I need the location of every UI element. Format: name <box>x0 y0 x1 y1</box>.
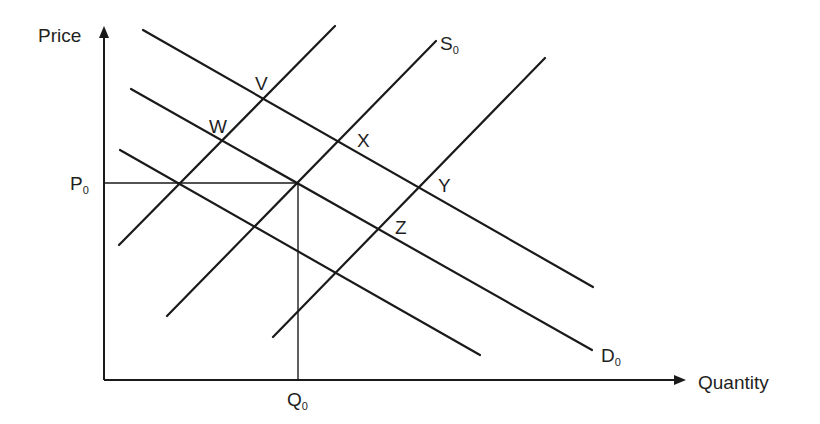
point-z-label: Z <box>395 217 407 238</box>
x-axis-label: Quantity <box>698 372 769 393</box>
point-y-label: Y <box>438 175 451 196</box>
point-x-label: X <box>357 130 370 151</box>
demand-curve-d0 <box>131 89 592 350</box>
demand-curve-high <box>143 30 593 287</box>
y-axis-label: Price <box>38 25 81 46</box>
point-w-label: W <box>209 116 227 137</box>
x-axis-arrow-icon <box>674 375 686 385</box>
y-axis-arrow-icon <box>99 26 109 38</box>
d0-label: D0 <box>601 345 621 368</box>
q0-label: Q0 <box>287 389 308 412</box>
p0-label: P0 <box>70 173 89 196</box>
point-v-label: V <box>255 73 268 94</box>
s0-label: S0 <box>440 33 459 56</box>
supply-curve-s0 <box>167 41 436 316</box>
supply-demand-diagram: Price Quantity P0 Q0 S0 D0 V W X Y Z <box>0 0 820 424</box>
supply-curve-right <box>273 58 545 337</box>
